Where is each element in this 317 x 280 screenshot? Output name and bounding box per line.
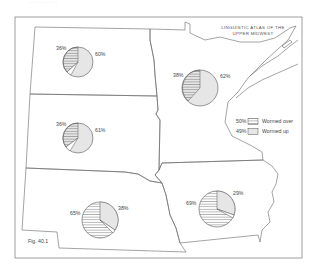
pie-north-dakota: 36% 60% [56,45,106,77]
pie-label-over: 69% [186,200,197,206]
pie-label-over: 65% [70,210,81,216]
legend-label: Wormed up [262,128,289,134]
legend-label: Wormed over [262,118,293,124]
pie-label-up: 38% [118,205,129,211]
pie-label-over: 36% [56,45,67,51]
map-frame [15,17,302,258]
minnesota-outline [150,22,296,170]
pie-label-up: 29% [233,190,244,196]
atlas-title-line2: UPPER MIDWEST [233,31,274,36]
pie-south-dakota: 36% 61% [56,121,106,153]
hatched-swatch-icon [248,119,258,125]
legend-percent: 50% [236,118,247,124]
linguistic-atlas-map: · · · · · · · · · LINGUISTIC ATLAS OF TH… [0,0,317,280]
figure-label: Fig. 40.1 [28,238,48,244]
pie-nebraska: 65% 38% [70,202,129,238]
legend-item-wormed-over: 50% Wormed over [236,118,293,125]
gray-swatch-icon [248,129,258,135]
pie-label-over: 38% [173,72,184,78]
lake-superior-shore [250,40,298,76]
pie-label-up: 61% [95,127,106,133]
south-dakota-outline [26,94,162,183]
pie-iowa: 69% 29% [186,190,244,227]
atlas-title-line1: LINGUISTIC ATLAS OF THE [221,25,284,30]
pie-label-up: 62% [220,73,231,79]
legend: 50% Wormed over 49% Wormed up [236,118,293,135]
pie-label-up: 60% [95,51,106,57]
wisconsin-border [236,64,298,98]
pie-minnesota: 38% 62% [173,70,231,106]
pie-label-over: 36% [56,121,67,127]
legend-item-wormed-up: 49% Wormed up [236,128,289,135]
legend-percent: 49% [236,128,247,134]
cut-off-text: · · · · · · · · · [30,0,57,5]
north-dakota-outline [30,27,157,96]
